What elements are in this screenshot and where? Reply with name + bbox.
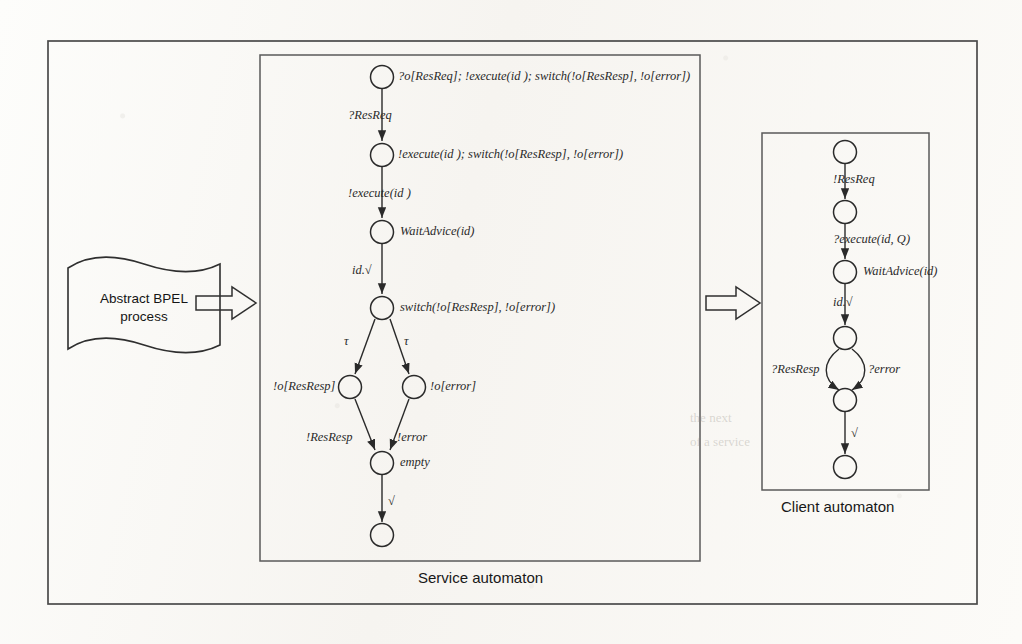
edge-c3-c4-error [852, 349, 865, 390]
transition-label-c3-c4-resresp: ?ResResp [771, 362, 820, 377]
state-c1 [834, 201, 857, 224]
state-s7 [371, 524, 394, 547]
state-label-s6: empty [400, 455, 430, 470]
state-label-s2: WaitAdvice(id) [400, 224, 475, 239]
transition-label-s2-s3: id.√ [352, 263, 372, 278]
edge-c3-c4-resresp [826, 349, 839, 390]
state-s2 [371, 221, 394, 244]
scanned-figure: Abstract BPEL process ?o[ResReq]; !execu… [0, 0, 1022, 644]
edge-s4-s6 [355, 399, 375, 450]
transition-label-s6-s7: √ [388, 494, 395, 509]
state-s0 [371, 66, 394, 89]
state-label-s4: !o[ResResp] [273, 379, 336, 394]
state-label-s3: switch(!o[ResResp], !o[error]) [400, 300, 555, 315]
state-label-s1: !execute(id ); switch(!o[ResResp], !o[er… [398, 147, 623, 162]
transition-label-s3-s4: τ [344, 334, 348, 349]
transition-label-c0-c1: !ResReq [833, 172, 875, 187]
transition-label-c4-c5: √ [851, 426, 858, 441]
state-c5 [834, 456, 857, 479]
state-c0 [834, 141, 857, 164]
state-s4 [339, 376, 362, 399]
edge-s3-s4 [355, 319, 375, 374]
state-s1 [371, 144, 394, 167]
state-c2 [834, 261, 857, 284]
transition-label-c1-c2: ?execute(id, Q) [833, 232, 910, 247]
transition-label-s1-s2: !execute(id ) [348, 186, 411, 201]
service-automaton-caption: Service automaton [418, 569, 543, 586]
arrow-service-to-client [706, 287, 760, 319]
client-automaton-caption: Client automaton [781, 498, 894, 515]
transition-label-s5-s6: !error [397, 430, 427, 445]
transition-label-s3-s5: τ [404, 334, 408, 349]
transition-label-c3-c4-error: ?error [868, 362, 900, 377]
state-label-c2: WaitAdvice(id) [863, 264, 938, 279]
state-s6 [371, 452, 394, 475]
state-label-s0: ?o[ResReq]; !execute(id ); switch(!o[Res… [398, 69, 690, 84]
state-c3 [834, 327, 857, 350]
transition-label-c2-c3: id.√ [833, 295, 853, 310]
state-s5 [403, 376, 426, 399]
state-s3 [371, 297, 394, 320]
state-c4 [834, 389, 857, 412]
bpel-process-banner-label: Abstract BPEL process [74, 290, 214, 326]
transition-label-s0-s1: ?ResReq [348, 108, 392, 123]
state-label-s5: !o[error] [430, 379, 476, 394]
transition-label-s4-s6: !ResResp [306, 430, 353, 445]
